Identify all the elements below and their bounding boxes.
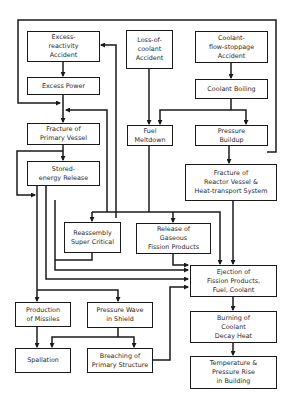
node-ejection-fission-products: Ejection of Fission Products, Fuel, Cool… [190,265,277,297]
reactor-accident-flowchart: Excess- reactivity Accident Excess Power… [0,0,288,401]
node-burning-of-coolant: Burning of Coolant Decay Heat [190,311,277,343]
node-stored-energy-release: Stored- energy Release [27,161,100,186]
node-fracture-reactor-vessel: Fracture of Reactor Vessel & Heat-transp… [185,164,277,201]
node-coolant-flow-stoppage-accident: Coolant- flow-stoppage Accident [195,31,268,63]
node-coolant-boiling: Coolant Boiling [195,79,268,99]
node-excess-power: Excess Power [27,77,100,95]
node-breaching-primary-structure: Breaching of Primary Structure [87,348,153,373]
node-release-gaseous-fission-products: Release of Gaseous Fission Products [136,223,211,254]
node-production-of-missiles: Production of Missiles [15,302,71,327]
node-fracture-primary-vessel: Fracture of Primary Vessel [27,123,100,145]
node-excess-reactivity-accident: Excess- reactivity Accident [27,31,100,62]
node-pressure-buildup: Pressure Buildup [195,125,268,146]
node-fuel-meltdown: Fuel Meltdown [127,125,173,146]
node-loss-of-coolant-accident: Loss-of- coolant Accident [126,30,173,69]
node-reassembly-super-critical: Reassembly Super Critical [64,222,121,253]
node-pressure-wave-in-shield: Pressure Wave in Shield [87,302,153,328]
node-temperature-pressure-rise: Temperature & Pressure Rise in Building [190,356,277,389]
node-spallation: Spallation [15,348,71,373]
